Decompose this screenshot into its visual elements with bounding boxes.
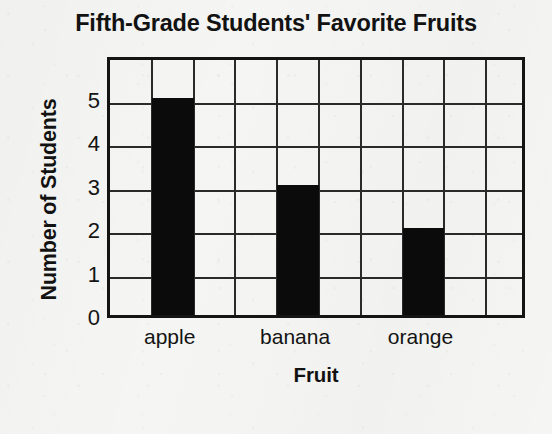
x-axis-title: Fruit <box>107 363 525 387</box>
y-tick-label: 4 <box>60 133 100 155</box>
x-tick-label-banana: banana <box>230 326 360 347</box>
bar-chart-figure: Fifth-Grade Students' Favorite Fruits Nu… <box>0 0 552 434</box>
x-tick-label-apple: apple <box>105 326 235 347</box>
y-tick-label: 2 <box>60 220 100 242</box>
y-tick-label: 3 <box>60 177 100 199</box>
y-tick-label: 5 <box>60 90 100 112</box>
y-tick-label: 1 <box>60 264 100 286</box>
x-tick-label-orange: orange <box>356 326 486 347</box>
y-tick-label: 0 <box>60 307 100 329</box>
